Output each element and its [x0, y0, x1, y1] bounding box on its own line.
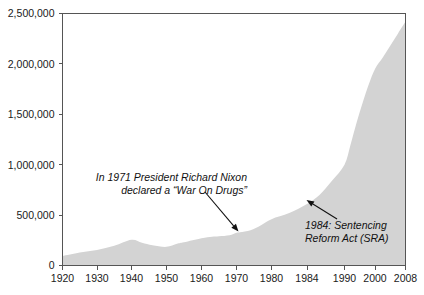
y-tick-label: 1,000,000 — [8, 159, 55, 171]
x-tick-label: 1960 — [190, 272, 214, 284]
x-tick-label: 1930 — [85, 272, 109, 284]
x-tick-label: 2008 — [394, 272, 418, 284]
y-tick-label: 1,500,000 — [8, 108, 55, 120]
chart-canvas: 0500,0001,000,0001,500,0002,000,0002,500… — [0, 0, 424, 295]
x-tick-label: 1990 — [333, 272, 357, 284]
nixon-annotation-arrow-line — [205, 192, 234, 226]
x-tick-label: 2000 — [363, 272, 387, 284]
y-axis-ticks: 0500,0001,000,0001,500,0002,000,0002,500… — [8, 7, 63, 271]
incarceration-area-chart: 0500,0001,000,0001,500,0002,000,0002,500… — [0, 0, 424, 295]
y-tick-label: 2,000,000 — [8, 58, 55, 70]
x-tick-label: 1980 — [260, 272, 284, 284]
y-tick-label: 0 — [49, 259, 55, 271]
x-tick-label: 1950 — [155, 272, 179, 284]
x-tick-label: 1984 — [295, 272, 319, 284]
nixon-annotation-text: In 1971 President Richard Nixondeclared … — [96, 171, 248, 196]
x-tick-label: 1940 — [120, 272, 144, 284]
x-tick-label: 1970 — [225, 272, 249, 284]
y-tick-label: 2,500,000 — [8, 7, 55, 19]
nixon-annotation-line: In 1971 President Richard Nixon — [96, 171, 247, 183]
sra-annotation-line: Reform Act (SRA) — [305, 232, 389, 244]
sra-annotation-text: 1984: SentencingReform Act (SRA) — [305, 219, 389, 244]
x-axis-ticks: 1920193019401950196019701980198419902000… — [51, 266, 418, 284]
y-tick-label: 500,000 — [17, 209, 55, 221]
x-tick-label: 1920 — [51, 272, 75, 284]
sra-annotation-line: 1984: Sentencing — [305, 219, 387, 231]
nixon-annotation-line: declared a “War On Drugs” — [121, 184, 247, 196]
